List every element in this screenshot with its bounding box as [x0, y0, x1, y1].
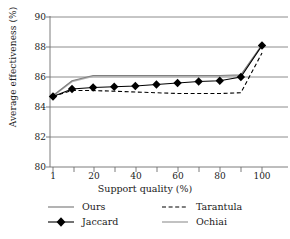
- x-axis-line: [50, 167, 288, 172]
- data-point-marker: [110, 83, 118, 91]
- data-point-marker: [194, 77, 202, 85]
- legend-label: Ours: [82, 200, 105, 214]
- data-point-marker: [216, 77, 224, 85]
- legend-key-line-diamond-black: [46, 215, 76, 229]
- data-point-marker: [152, 80, 160, 88]
- legend-label: Jaccard: [82, 215, 118, 229]
- chart-legend: Ours Tarantula Jaccard Ochiai: [0, 200, 290, 239]
- series-jaccard: [53, 46, 262, 97]
- legend-label: Ochiai: [196, 215, 227, 229]
- figure: Average effectiveness (%) 90 88 86 84 82…: [0, 0, 290, 239]
- plot-area: Average effectiveness (%) 90 88 86 84 82…: [0, 0, 290, 185]
- legend-label: Tarantula: [196, 200, 242, 214]
- data-point-marker: [173, 79, 181, 87]
- legend-key-line-solid-lightgray: [160, 215, 190, 229]
- series-jaccard-markers: [49, 41, 266, 100]
- chart-canvas: [0, 0, 290, 185]
- legend-key-line-solid-gray: [46, 200, 76, 214]
- data-point-marker: [237, 73, 245, 81]
- x-axis-title: Support quality (%): [0, 183, 290, 194]
- data-point-marker: [131, 82, 139, 90]
- y-axis-line: [46, 16, 50, 167]
- legend-key-line-dashed-black: [160, 200, 190, 214]
- data-point-marker: [89, 83, 97, 91]
